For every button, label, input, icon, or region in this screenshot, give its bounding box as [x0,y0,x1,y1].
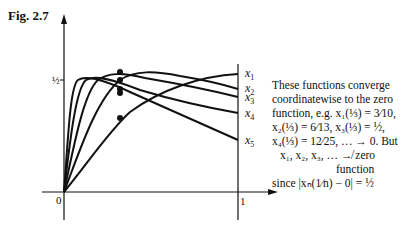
origin-label: 0 [56,194,62,206]
curve-x3 [64,74,238,192]
caption-line: x₁, x₂, x₃, … ↛ zero [272,148,414,162]
curve-label-x1: x1 [244,66,254,82]
caption-line: coordinatewise to the zero [272,92,414,106]
point-marker [117,90,123,96]
y-axis-arrow-icon [61,14,67,24]
y-half-label: ½ [52,75,60,86]
curve-label-x4: x4 [244,106,254,122]
curve-x5 [64,78,238,192]
x-one-label: 1 [240,195,246,207]
caption-line: function [272,162,414,176]
caption-line: These functions converge [272,78,414,92]
point-marker [117,115,123,121]
curve-x4 [64,78,238,192]
caption-line: x₂(⅓) = 6⁄13, x₃(⅓) = ½, [272,120,414,134]
point-marker [117,69,123,75]
point-marker [117,77,123,83]
caption-line: x₄(⅓) = 12⁄25, … → 0. But [272,134,414,148]
figure-caption: These functions converge coordinatewise … [272,78,414,190]
caption-line: since |xₙ(1⁄n) − 0| = ½ [272,176,414,190]
curve-label-x5: x5 [244,133,254,149]
caption-line: function, e.g. x₁(⅓) = 3⁄10, [272,106,414,120]
